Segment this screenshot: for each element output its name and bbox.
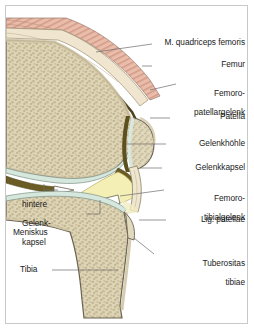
label-hintere-gelenkkapsel: hintere Gelenk- kapsel bbox=[13, 190, 73, 257]
label-tibia: Tibia bbox=[20, 265, 80, 275]
label-tuberositas-tibiae: Tuberositas tibiae bbox=[150, 249, 245, 297]
label-femur: Femur bbox=[150, 60, 245, 70]
label-tuberositas-tibiae-line2: tibiae bbox=[225, 277, 245, 287]
label-tuberositas-tibiae-line1: Tuberositas bbox=[203, 258, 246, 268]
label-hintere-gelenkkapsel-line1: hintere bbox=[22, 199, 47, 209]
label-hintere-gelenkkapsel-line3: kapsel bbox=[22, 237, 46, 247]
label-gelenkhoehle: Gelenkhöhle bbox=[146, 139, 245, 149]
label-m-quadriceps-femoris: M. quadriceps femoris bbox=[142, 38, 245, 48]
label-femoropatellargelenk-line1: Femoro- bbox=[214, 88, 245, 98]
label-femorotibialgelenk-line1: Femoro- bbox=[214, 193, 245, 203]
label-meniskus: Meniskus bbox=[13, 228, 85, 238]
label-femorotibialgelenk: Femoro- tibialgelenk bbox=[150, 184, 245, 232]
label-gelenkkapsel: Gelenkkapsel bbox=[146, 163, 245, 173]
label-patella: Patella bbox=[150, 112, 245, 122]
label-lig-patellae: Lig. patellae bbox=[150, 215, 245, 225]
figure-root: M. quadriceps femoris Femur Femoro- pate… bbox=[0, 0, 254, 330]
